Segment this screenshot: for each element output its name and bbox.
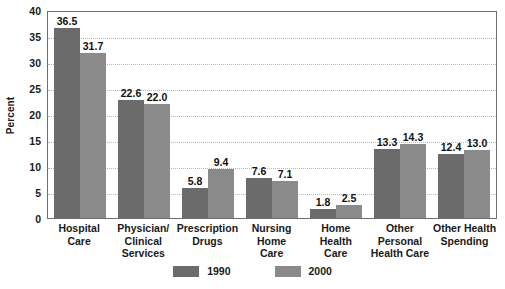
bar-value-label: 36.5 xyxy=(57,15,77,27)
bar-slot: 22.6 xyxy=(118,12,144,218)
y-axis-tick-labels: 4035302520151050 xyxy=(20,11,44,219)
bar-slot: 7.6 xyxy=(246,12,272,218)
y-axis-tick-label: 40 xyxy=(29,5,41,17)
bar-value-label: 5.8 xyxy=(188,175,203,187)
x-axis-category-label-line: Health xyxy=(305,235,367,248)
bar[interactable] xyxy=(310,209,336,218)
plot-area: 36.531.722.622.05.89.47.67.11.82.513.314… xyxy=(47,11,497,219)
bar[interactable] xyxy=(272,181,298,218)
y-axis-title-text: Percent xyxy=(6,96,17,133)
x-axis-category-label-line: Hospital xyxy=(48,222,110,235)
bar[interactable] xyxy=(208,169,234,218)
bar[interactable] xyxy=(144,104,170,218)
bar-group: 12.413.0 xyxy=(432,12,496,218)
legend-item-label: 1990 xyxy=(207,265,230,277)
x-axis-category-label-line: Spending xyxy=(433,235,496,248)
legend-item[interactable]: 2000 xyxy=(275,265,332,277)
bar-group: 5.89.4 xyxy=(176,12,240,218)
x-axis-category-label-line: Care xyxy=(241,247,303,260)
y-axis-tick-label: 30 xyxy=(29,57,41,69)
bar-value-label: 9.4 xyxy=(214,156,229,168)
bar-value-label: 14.3 xyxy=(403,131,423,143)
bar[interactable] xyxy=(54,28,80,218)
bar-slot: 2.5 xyxy=(336,12,362,218)
bar-slot: 36.5 xyxy=(54,12,80,218)
bar[interactable] xyxy=(464,150,490,218)
x-axis-category-label-line: Physician/ xyxy=(112,222,174,235)
bar[interactable] xyxy=(400,144,426,218)
y-axis-title: Percent xyxy=(2,0,20,230)
bar[interactable] xyxy=(118,100,144,218)
bar-value-label: 2.5 xyxy=(342,192,357,204)
x-axis-category-label-line: Drugs xyxy=(176,235,238,248)
y-axis-tick-label: 15 xyxy=(29,135,41,147)
x-axis-category-label: PrescriptionDrugs xyxy=(175,222,239,260)
x-axis-category-label-line: Personal xyxy=(369,235,431,248)
bar-slot: 9.4 xyxy=(208,12,234,218)
bar-value-label: 13.0 xyxy=(467,137,487,149)
bar-value-label: 12.4 xyxy=(441,141,461,153)
bar-group: 1.82.5 xyxy=(304,12,368,218)
y-axis-tick-label: 0 xyxy=(35,213,41,225)
x-axis-category-label: Other HealthSpending xyxy=(432,222,497,260)
bar[interactable] xyxy=(336,205,362,218)
bar-value-label: 31.7 xyxy=(83,40,103,52)
legend-item-label: 2000 xyxy=(309,265,332,277)
x-axis-category-label-line: Clinical xyxy=(112,235,174,248)
legend-color-swatch xyxy=(275,266,301,277)
y-axis-tick-label: 5 xyxy=(35,187,41,199)
bar-groups: 36.531.722.622.05.89.47.67.11.82.513.314… xyxy=(48,12,496,218)
x-axis-category-label: HomeHealthCare xyxy=(304,222,368,260)
bar-group: 7.67.1 xyxy=(240,12,304,218)
bar-value-label: 7.6 xyxy=(252,165,267,177)
bar-slot: 31.7 xyxy=(80,12,106,218)
legend-color-swatch xyxy=(173,266,199,277)
x-axis-category-label-line: Other Health xyxy=(433,222,496,235)
x-axis-category-label: HospitalCare xyxy=(47,222,111,260)
chart-legend: 19902000 xyxy=(0,265,505,277)
x-axis-category-label-line: Care xyxy=(305,247,367,260)
bar-value-label: 22.6 xyxy=(121,87,141,99)
y-axis-tick-label: 25 xyxy=(29,83,41,95)
bar[interactable] xyxy=(80,53,106,218)
bar-slot: 7.1 xyxy=(272,12,298,218)
legend-item[interactable]: 1990 xyxy=(173,265,230,277)
bar-value-label: 13.3 xyxy=(377,136,397,148)
x-axis-category-label-line: Health Care xyxy=(369,247,431,260)
bar-slot: 12.4 xyxy=(438,12,464,218)
y-axis-tick-label: 35 xyxy=(29,31,41,43)
bar-group: 13.314.3 xyxy=(368,12,432,218)
bar-slot: 14.3 xyxy=(400,12,426,218)
bar-value-label: 22.0 xyxy=(147,91,167,103)
y-axis-tick-label: 20 xyxy=(29,109,41,121)
bar[interactable] xyxy=(438,154,464,218)
x-axis-category-label-line: Services xyxy=(112,247,174,260)
x-axis-category-label: NursingHomeCare xyxy=(240,222,304,260)
bar[interactable] xyxy=(374,149,400,218)
x-axis-category-label-line: Home xyxy=(305,222,367,235)
bar-chart: Percent 4035302520151050 36.531.722.622.… xyxy=(0,0,505,289)
bar-slot: 13.3 xyxy=(374,12,400,218)
bar-group: 36.531.7 xyxy=(48,12,112,218)
x-axis-category-label-line: Other xyxy=(369,222,431,235)
bar-group: 22.622.0 xyxy=(112,12,176,218)
bar-slot: 1.8 xyxy=(310,12,336,218)
bar-value-label: 7.1 xyxy=(278,168,293,180)
x-axis-category-label-line: Prescription xyxy=(176,222,238,235)
x-axis-category-labels: HospitalCarePhysician/ClinicalServicesPr… xyxy=(47,222,497,260)
x-axis-category-label-line: Home xyxy=(241,235,303,248)
bar-slot: 22.0 xyxy=(144,12,170,218)
bar-value-label: 1.8 xyxy=(316,196,331,208)
x-axis-category-label: OtherPersonalHealth Care xyxy=(368,222,432,260)
y-axis-tick-label: 10 xyxy=(29,161,41,173)
x-axis-category-label-line: Nursing xyxy=(241,222,303,235)
x-axis-category-label-line: Care xyxy=(48,235,110,248)
bar-slot: 13.0 xyxy=(464,12,490,218)
bar[interactable] xyxy=(182,188,208,218)
x-axis-category-label: Physician/ClinicalServices xyxy=(111,222,175,260)
bar[interactable] xyxy=(246,178,272,218)
bar-slot: 5.8 xyxy=(182,12,208,218)
